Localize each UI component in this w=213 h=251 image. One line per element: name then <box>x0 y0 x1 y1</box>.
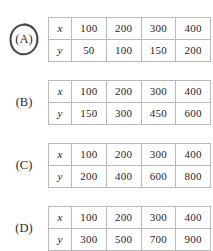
table-row: x100200300400 <box>49 17 211 39</box>
table-row: y50100150200 <box>49 39 211 61</box>
table-value-cell: 900 <box>176 228 211 250</box>
table-value-cell: 100 <box>72 17 107 39</box>
table-row: x100200300400 <box>49 143 211 165</box>
choice-label-cell-b[interactable]: (B) <box>0 80 48 124</box>
choice-label-b: (B) <box>16 95 33 110</box>
choice-table-a: x100200300400y50100150200 <box>48 17 211 62</box>
table-value-cell: 300 <box>141 80 176 102</box>
table-value-cell: 400 <box>176 206 211 228</box>
table-value-cell: 700 <box>141 228 176 250</box>
table-value-cell: 200 <box>106 143 141 165</box>
table-value-cell: 600 <box>141 165 176 187</box>
table-value-cell: 300 <box>106 102 141 124</box>
table-row: x100200300400 <box>49 80 211 102</box>
table-value-cell: 450 <box>141 102 176 124</box>
answer-choice-list: (A)x100200300400y50100150200(B)x10020030… <box>0 0 213 251</box>
table-value-cell: 800 <box>176 165 211 187</box>
table-value-cell: 300 <box>141 17 176 39</box>
variable-header-cell: x <box>49 17 72 39</box>
table-value-cell: 100 <box>72 206 107 228</box>
table-value-cell: 400 <box>176 17 211 39</box>
table-value-cell: 300 <box>72 228 107 250</box>
table-value-cell: 200 <box>176 39 211 61</box>
variable-header-cell: x <box>49 80 72 102</box>
choice-table-c: x100200300400y200400600800 <box>48 143 211 188</box>
choice-label-cell-c[interactable]: (C) <box>0 143 48 187</box>
table-value-cell: 200 <box>72 165 107 187</box>
variable-header-cell: x <box>49 143 72 165</box>
table-value-cell: 200 <box>106 17 141 39</box>
table-row: x100200300400 <box>49 206 211 228</box>
table-value-cell: 150 <box>72 102 107 124</box>
variable-header-cell: x <box>49 206 72 228</box>
table-value-cell: 400 <box>176 80 211 102</box>
answer-choice-b[interactable]: (B)x100200300400y150300450600 <box>0 80 213 124</box>
table-value-cell: 200 <box>106 80 141 102</box>
table-value-cell: 400 <box>176 143 211 165</box>
variable-header-cell: y <box>49 165 72 187</box>
table-value-cell: 100 <box>72 143 107 165</box>
table-value-cell: 50 <box>72 39 107 61</box>
answer-choice-a[interactable]: (A)x100200300400y50100150200 <box>0 17 213 61</box>
answer-choice-c[interactable]: (C)x100200300400y200400600800 <box>0 143 213 187</box>
choice-table-d: x100200300400y300500700900 <box>48 206 211 251</box>
table-value-cell: 300 <box>141 143 176 165</box>
choice-label-a: (A) <box>15 32 32 47</box>
choice-label-c: (C) <box>16 158 33 173</box>
variable-header-cell: y <box>49 102 72 124</box>
table-value-cell: 400 <box>106 165 141 187</box>
table-row: y200400600800 <box>49 165 211 187</box>
table-value-cell: 200 <box>106 206 141 228</box>
choice-label-cell-a[interactable]: (A) <box>0 17 48 61</box>
answer-choice-d[interactable]: (D)x100200300400y300500700900 <box>0 206 213 250</box>
choice-label-cell-d[interactable]: (D) <box>0 206 48 250</box>
table-row: y150300450600 <box>49 102 211 124</box>
table-value-cell: 100 <box>106 39 141 61</box>
table-value-cell: 150 <box>141 39 176 61</box>
choice-label-d: (D) <box>15 221 32 236</box>
table-row: y300500700900 <box>49 228 211 250</box>
table-value-cell: 100 <box>72 80 107 102</box>
variable-header-cell: y <box>49 228 72 250</box>
table-value-cell: 600 <box>176 102 211 124</box>
table-value-cell: 300 <box>141 206 176 228</box>
variable-header-cell: y <box>49 39 72 61</box>
table-value-cell: 500 <box>106 228 141 250</box>
choice-table-b: x100200300400y150300450600 <box>48 80 211 125</box>
